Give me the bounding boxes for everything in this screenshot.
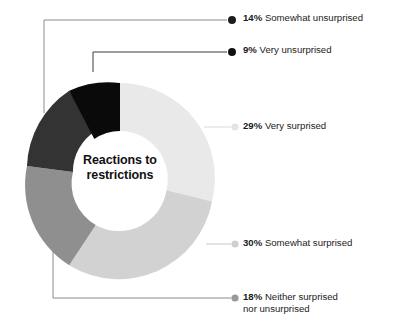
legend-percent-somewhat-surprised: 30% — [243, 237, 262, 248]
legend-dot-somewhat-surprised — [231, 240, 238, 247]
donut-segments — [25, 82, 215, 279]
donut-slice-very-surprised[interactable] — [120, 83, 215, 201]
legend-item-neither[interactable]: 18% Neither surprised nor unsurprised — [243, 291, 338, 316]
legend-percent-very-surprised: 29% — [243, 120, 262, 131]
legend-dot-very-unsurprised — [228, 48, 236, 56]
legend-text-neither: Neither surprised — [265, 291, 338, 302]
legend-percent-somewhat-unsurprised: 14% — [243, 12, 262, 23]
legend-item-somewhat-unsurprised[interactable]: 14% Somewhat unsurprised — [243, 12, 363, 24]
legend-text-very-surprised: Very surprised — [265, 120, 326, 131]
legend-percent-very-unsurprised: 9% — [243, 44, 257, 55]
legend-text-somewhat-unsurprised: Somewhat unsurprised — [265, 12, 363, 23]
donut-slice-somewhat-surprised[interactable] — [69, 190, 212, 279]
legend-text-somewhat-surprised: Somewhat surprised — [265, 237, 352, 248]
legend-text-neither-line2: nor unsurprised — [243, 303, 338, 315]
legend-item-somewhat-surprised[interactable]: 30% Somewhat surprised — [243, 237, 352, 249]
leader-line-very-unsurprised — [93, 52, 227, 72]
donut-chart: Reactions to restrictions 14% Somewhat u… — [0, 0, 396, 327]
legend-dot-somewhat-unsurprised — [228, 16, 236, 24]
legend-item-very-unsurprised[interactable]: 9% Very unsurprised — [243, 44, 332, 56]
donut-chart-graphic — [0, 0, 396, 327]
legend-percent-neither: 18% — [243, 291, 262, 302]
legend-text-very-unsurprised: Very unsurprised — [260, 44, 332, 55]
legend-dots — [228, 16, 239, 302]
legend-item-very-surprised[interactable]: 29% Very surprised — [243, 120, 326, 132]
legend-dot-very-surprised — [231, 123, 238, 130]
legend-dot-neither — [231, 294, 238, 301]
